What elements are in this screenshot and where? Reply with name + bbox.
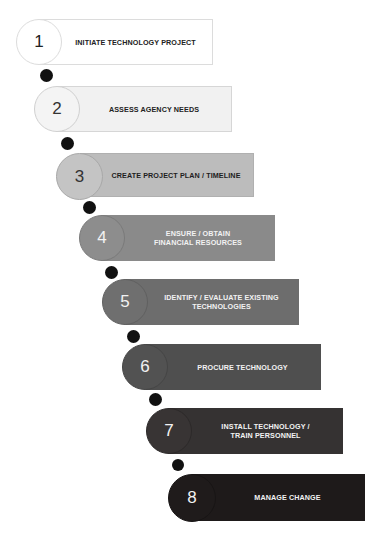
connector-dot-5 [127,330,140,343]
step-6-number-circle: 6 [122,344,168,390]
step-3-label: CREATE PROJECT PLAN / TIMELINE [111,171,240,180]
step-8-label: MANAGE CHANGE [254,493,320,502]
step-4: ENSURE / OBTAIN FINANCIAL RESOURCES 4 [79,215,275,261]
connector-dot-3 [83,201,96,214]
step-5-number-circle: 5 [102,279,148,325]
step-7-label-line-1: INSTALL TECHNOLOGY / [221,422,309,431]
step-1-number-circle: 1 [16,19,62,65]
step-1-label: INITIATE TECHNOLOGY PROJECT [75,38,196,47]
step-4-label-line-1: ENSURE / OBTAIN [166,229,230,238]
step-8-number-circle: 8 [168,474,216,522]
step-6-label: PROCURE TECHNOLOGY [197,363,287,372]
step-8: MANAGE CHANGE 8 [168,474,365,521]
step-4-number: 4 [97,228,106,248]
step-4-number-circle: 4 [79,215,125,261]
step-5-bar: IDENTIFY / EVALUATE EXISTING TECHNOLOGIE… [126,279,299,325]
step-4-bar: ENSURE / OBTAIN FINANCIAL RESOURCES [103,215,275,261]
step-1-number: 1 [34,32,43,52]
step-3: CREATE PROJECT PLAN / TIMELINE 3 [56,153,254,197]
step-5-number: 5 [120,292,129,312]
step-3-bar: CREATE PROJECT PLAN / TIMELINE [80,153,254,197]
connector-dot-1 [40,69,53,82]
step-2-number-circle: 2 [34,86,80,132]
step-5-label-line-2: TECHNOLOGIES [192,302,251,311]
step-1: INITIATE TECHNOLOGY PROJECT 1 [16,19,213,65]
step-2-label: ASSESS AGENCY NEEDS [109,105,199,114]
connector-dot-6 [149,393,162,406]
step-7-label-line-2: TRAIN PERSONNEL [230,431,300,440]
step-2: ASSESS AGENCY NEEDS 2 [34,86,232,132]
step-7-bar: INSTALL TECHNOLOGY / TRAIN PERSONNEL [170,408,343,454]
connector-dot-7 [172,459,184,471]
step-4-label-line-2: FINANCIAL RESOURCES [154,238,242,247]
step-1-bar: INITIATE TECHNOLOGY PROJECT [40,19,213,65]
step-5: IDENTIFY / EVALUATE EXISTING TECHNOLOGIE… [102,279,299,325]
step-8-bar: MANAGE CHANGE [192,474,365,521]
step-2-bar: ASSESS AGENCY NEEDS [58,86,232,132]
step-6-bar: PROCURE TECHNOLOGY [146,344,321,390]
step-7-number-circle: 7 [146,408,192,454]
step-6-number: 6 [140,357,149,377]
step-7-number: 7 [164,421,173,441]
step-8-number: 8 [187,488,196,508]
step-6: PROCURE TECHNOLOGY 6 [122,344,321,390]
step-5-label-line-1: IDENTIFY / EVALUATE EXISTING [164,293,279,302]
step-2-number: 2 [52,99,61,119]
connector-dot-2 [61,137,74,150]
step-3-number-circle: 3 [56,153,103,200]
step-3-number: 3 [75,167,84,187]
step-7: INSTALL TECHNOLOGY / TRAIN PERSONNEL 7 [146,408,343,454]
connector-dot-4 [105,266,118,279]
